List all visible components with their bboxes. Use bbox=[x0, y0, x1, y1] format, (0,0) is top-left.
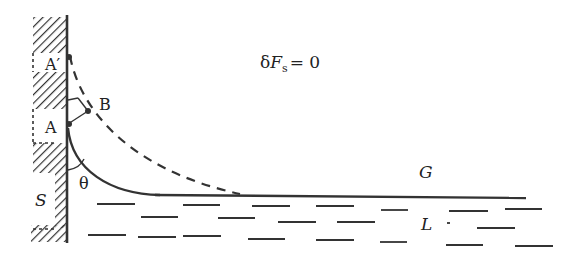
label-solid: S bbox=[35, 190, 47, 210]
label-a-prime: A′ bbox=[44, 55, 61, 74]
label-a: A bbox=[44, 118, 57, 137]
label-b: B bbox=[99, 95, 111, 114]
equation: δFs= 0 bbox=[260, 52, 320, 75]
equation-rhs: = 0 bbox=[290, 52, 320, 72]
label-gas: G bbox=[419, 162, 433, 182]
liquid-surface bbox=[155, 195, 526, 198]
equation-delta: δ bbox=[260, 52, 270, 72]
liquid-dashes bbox=[88, 204, 553, 246]
meniscus-dashed-curve bbox=[70, 56, 240, 194]
label-theta: θ bbox=[79, 174, 89, 193]
equation-sub: s bbox=[282, 62, 288, 75]
point-a-prime-marker bbox=[66, 54, 72, 60]
meniscus-diagram: A′ A B θ S G L δFs= 0 bbox=[0, 0, 571, 266]
label-liquid: L bbox=[420, 214, 432, 234]
